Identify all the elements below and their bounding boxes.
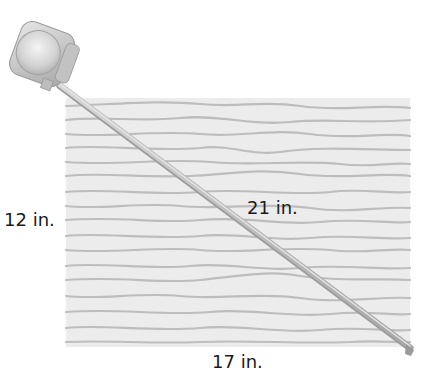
- diagonal-label: 21 in.: [247, 197, 298, 218]
- height-label: 12 in.: [4, 209, 55, 230]
- board-illustration: [0, 0, 424, 390]
- tape-measure-housing: [5, 18, 84, 96]
- diagram: 12 in. 21 in. 17 in.: [0, 0, 424, 390]
- width-label: 17 in.: [212, 351, 263, 372]
